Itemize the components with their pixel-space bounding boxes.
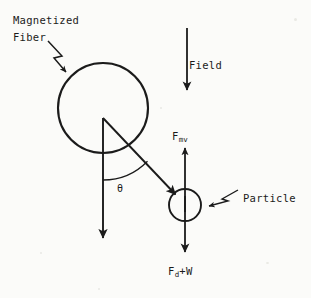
magnetic-force-symbol: F [172,130,179,142]
magnetic-force-subscript: mv [179,135,188,144]
magnetized-fiber-label-line2: Fiber [13,31,46,44]
particle-leader-zigzag [209,190,238,206]
angle-theta-label: θ [117,182,123,195]
fiber-leader-zigzag [48,41,66,72]
magnetic-force-label: Fmv [172,130,188,146]
figure-container: Magnetized Fiber Field Fmv θ Particle Fd… [0,0,311,298]
drag-force-symbol: F [168,265,175,277]
drag-weight-force-label: Fd+W [168,265,193,281]
particle-label: Particle [243,192,296,205]
diagram-canvas [0,0,311,298]
angle-arc [103,161,148,180]
radial-capture-arrow [103,118,176,195]
magnetized-fiber-label-line1: Magnetized [13,14,79,27]
field-label: Field [189,59,222,72]
drag-force-suffix: +W [179,265,192,277]
